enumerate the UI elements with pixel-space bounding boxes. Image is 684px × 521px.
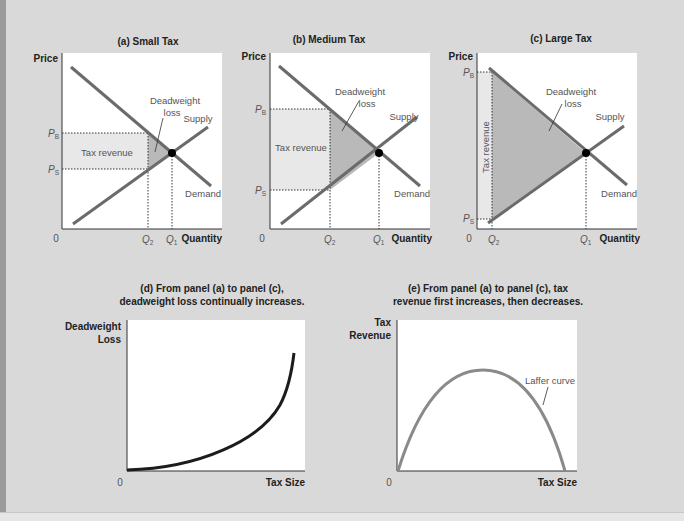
panel-b-supply-label: Supply — [389, 111, 418, 122]
svg-text:loss: loss — [565, 98, 582, 109]
panel-a-equilibrium-point — [168, 149, 176, 157]
panel-e-tax-revenue: (e) From panel (a) to panel (c), tax rev… — [349, 283, 583, 488]
svg-text:loss: loss — [359, 98, 376, 109]
svg-text:loss: loss — [164, 107, 181, 118]
panel-b-demand-label: Demand — [394, 188, 430, 199]
svg-text:Loss: Loss — [98, 334, 122, 345]
svg-text:PS: PS — [463, 213, 475, 225]
panel-e-title-line2: revenue first increases, then decreases. — [393, 296, 583, 307]
svg-text:Q2: Q2 — [488, 234, 500, 246]
svg-text:0: 0 — [53, 233, 59, 244]
panel-a-dwl-label: Deadweight — [150, 95, 201, 106]
panel-a-title: (a) Small Tax — [118, 36, 179, 47]
panel-e-plot-area — [397, 320, 577, 471]
svg-text:Q1: Q1 — [166, 234, 178, 246]
svg-text:Q1: Q1 — [580, 234, 592, 246]
panel-e-y-label: Tax — [375, 317, 392, 328]
panel-c-demand-label: Demand — [601, 188, 637, 199]
panel-b-tax-revenue-label: Tax revenue — [275, 142, 327, 153]
panel-a-y-label: Price — [34, 53, 59, 64]
svg-text:Q2: Q2 — [142, 234, 154, 246]
svg-text:0: 0 — [386, 477, 392, 488]
panel-e-x-label: Tax Size — [538, 477, 578, 488]
svg-text:Q2: Q2 — [324, 234, 336, 246]
panel-e-title-line1: (e) From panel (a) to panel (c), tax — [408, 283, 568, 294]
panel-c-supply-label: Supply — [595, 111, 624, 122]
panel-a-small-tax: (a) Small Tax Price Quantity 0 Deadweigh… — [34, 36, 223, 246]
svg-text:PB: PB — [48, 128, 59, 140]
panel-d-title-line1: (d) From panel (a) to panel (c), — [140, 283, 284, 294]
panel-d-title-line2: deadweight loss continually increases. — [119, 296, 304, 307]
panel-b-medium-tax: (b) Medium Tax Price Quantity 0 Deadweig… — [242, 34, 433, 246]
panel-b-equilibrium-point — [375, 149, 383, 157]
panel-c-x-label: Quantity — [599, 233, 640, 244]
panel-e-laffer-label: Laffer curve — [525, 375, 575, 386]
panel-d-x-label: Tax Size — [266, 477, 306, 488]
svg-text:PB: PB — [255, 104, 266, 116]
svg-text:Revenue: Revenue — [349, 330, 391, 341]
panel-c-dwl-label: Deadweight — [546, 86, 597, 97]
panel-a-supply-label: Supply — [183, 113, 212, 124]
svg-text:Q1: Q1 — [373, 234, 385, 246]
panel-d-y-label: Deadweight — [65, 321, 122, 332]
panel-c-large-tax: (c) Large Tax Price Quantity 0 Deadweigh… — [449, 33, 641, 246]
panel-c-y-label: Price — [449, 51, 474, 62]
panel-b-y-label: Price — [242, 51, 267, 62]
svg-text:PS: PS — [48, 164, 60, 176]
panel-b-title: (b) Medium Tax — [293, 34, 366, 45]
panel-c-equilibrium-point — [582, 149, 590, 157]
panel-d-plot-area — [127, 320, 305, 471]
svg-text:0: 0 — [259, 233, 265, 244]
panel-a-demand-label: Demand — [185, 188, 221, 199]
panel-a-x-label: Quantity — [181, 233, 222, 244]
svg-text:PS: PS — [255, 185, 267, 197]
panel-d-deadweight-loss: (d) From panel (a) to panel (c), deadwei… — [65, 283, 306, 488]
panel-b-dwl-label: Deadweight — [335, 86, 386, 97]
panel-c-tax-revenue-label: Tax revenue — [480, 121, 491, 173]
panel-b-x-label: Quantity — [391, 233, 432, 244]
svg-text:PB: PB — [463, 67, 474, 79]
panel-c-title: (c) Large Tax — [530, 33, 592, 44]
svg-text:0: 0 — [466, 233, 472, 244]
panel-a-tax-revenue-label: Tax revenue — [81, 147, 133, 158]
svg-text:0: 0 — [117, 477, 123, 488]
